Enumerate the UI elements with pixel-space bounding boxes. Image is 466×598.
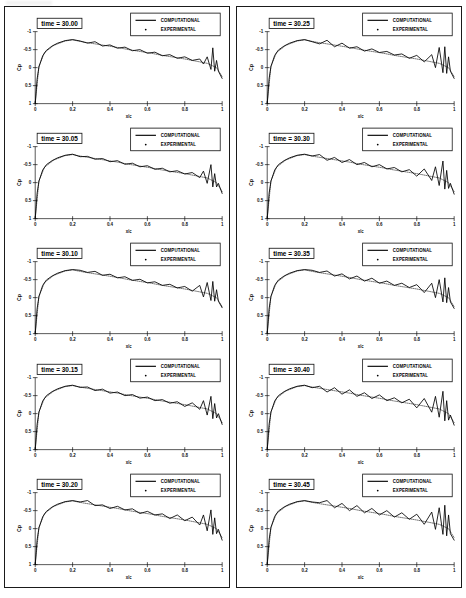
x-axis-label: x/c [126, 344, 132, 349]
x-tick-label: 1 [453, 568, 456, 573]
y-tick-label: 0.5 [257, 198, 264, 203]
y-tick-label: 0 [261, 296, 264, 301]
experimental-curve [267, 270, 454, 334]
x-axis-label: x/c [358, 113, 364, 118]
x-tick-label: 0.8 [414, 568, 421, 573]
x-tick-label: 0.6 [144, 222, 151, 227]
experimental-curve [35, 40, 222, 104]
time-label: time = 30.25 [273, 20, 310, 27]
y-tick-label: 0 [29, 411, 32, 416]
y-tick-label: 0.5 [25, 83, 32, 88]
y-tick-label: 0 [261, 411, 264, 416]
x-tick-label: 0.8 [182, 337, 189, 342]
computational-curve [267, 500, 454, 564]
x-tick-label: 0.6 [376, 107, 383, 112]
experimental-curve [267, 385, 454, 449]
x-axis-label: x/c [358, 574, 364, 579]
legend-label: EXPERIMENTAL [161, 142, 196, 147]
y-tick-label: 1 [261, 332, 264, 337]
x-tick-label: 1 [221, 337, 224, 342]
cp-panel: -1-0.500.5100.20.40.60.81x/cCptime = 30.… [238, 9, 460, 124]
y-tick-label: 0.5 [257, 544, 264, 549]
x-tick-label: 0.6 [144, 337, 151, 342]
y-tick-label: 0.5 [25, 314, 32, 319]
x-tick-label: 0.4 [339, 107, 346, 112]
x-tick-label: 0 [34, 453, 37, 458]
y-tick-label: -0.5 [24, 162, 32, 167]
x-tick-label: 0.2 [69, 222, 76, 227]
time-label: time = 30.30 [273, 135, 310, 142]
x-tick-label: 0.8 [182, 453, 189, 458]
legend-label: EXPERIMENTAL [393, 27, 428, 32]
x-tick-label: 0.2 [301, 337, 308, 342]
computational-curve [267, 385, 454, 449]
time-label: time = 30.35 [273, 250, 310, 257]
y-tick-label: -1 [27, 490, 31, 495]
y-tick-label: -1 [259, 375, 263, 380]
legend-label: EXPERIMENTAL [161, 258, 196, 263]
y-axis-label: Cp [248, 295, 254, 302]
x-tick-label: 0 [34, 337, 37, 342]
y-tick-label: -1 [27, 144, 31, 149]
y-tick-label: 0.5 [25, 429, 32, 434]
legend-label: EXPERIMENTAL [393, 142, 428, 147]
x-tick-label: 0 [34, 222, 37, 227]
y-tick-label: -0.5 [24, 508, 32, 513]
x-axis-label: x/c [126, 113, 132, 118]
x-tick-label: 0.2 [301, 222, 308, 227]
x-tick-label: 0.6 [376, 337, 383, 342]
x-tick-label: 0.8 [182, 107, 189, 112]
x-tick-label: 0.6 [376, 568, 383, 573]
legend-label: EXPERIMENTAL [393, 373, 428, 378]
y-tick-label: 0 [29, 296, 32, 301]
legend-label: COMPUTATIONAL [393, 133, 432, 138]
time-label: time = 30.45 [273, 480, 310, 487]
y-tick-label: -0.5 [256, 47, 264, 52]
x-axis-label: x/c [126, 574, 132, 579]
x-tick-label: 0.8 [414, 107, 421, 112]
time-label: time = 30.20 [41, 480, 78, 487]
computational-curve [35, 154, 222, 218]
x-tick-label: 0.2 [69, 107, 76, 112]
x-tick-label: 1 [453, 222, 456, 227]
x-tick-label: 0.6 [376, 453, 383, 458]
computational-curve [35, 40, 222, 104]
x-tick-label: 0.2 [69, 453, 76, 458]
x-tick-label: 0 [266, 107, 269, 112]
cp-panel: -1-0.500.5100.20.40.60.81x/cCptime = 30.… [238, 470, 460, 585]
cp-panel: -1-0.500.5100.20.40.60.81x/cCptime = 30.… [6, 470, 228, 585]
cp-panel: -1-0.500.5100.20.40.60.81x/cCptime = 30.… [6, 124, 228, 239]
x-tick-label: 0.4 [107, 568, 114, 573]
y-tick-label: 0.5 [257, 429, 264, 434]
x-tick-label: 0.4 [339, 222, 346, 227]
y-tick-label: -1 [259, 29, 263, 34]
y-tick-label: 1 [29, 216, 32, 221]
y-tick-label: 1 [261, 216, 264, 221]
x-tick-label: 1 [453, 107, 456, 112]
experimental-curve [35, 501, 222, 565]
y-tick-label: -0.5 [256, 393, 264, 398]
x-tick-label: 0.6 [144, 453, 151, 458]
x-axis-label: x/c [126, 229, 132, 234]
y-tick-label: 0.5 [25, 198, 32, 203]
x-tick-label: 0.8 [414, 337, 421, 342]
x-tick-label: 0.2 [69, 568, 76, 573]
x-tick-label: 0.4 [339, 453, 346, 458]
x-tick-label: 0 [34, 107, 37, 112]
computational-curve [267, 40, 454, 104]
y-tick-label: 0 [261, 526, 264, 531]
cp-panel: -1-0.500.5100.20.40.60.81x/cCptime = 30.… [238, 124, 460, 239]
x-tick-label: 0.2 [301, 568, 308, 573]
x-tick-label: 1 [221, 568, 224, 573]
time-label: time = 30.00 [41, 20, 78, 27]
legend-label: COMPUTATIONAL [161, 364, 200, 369]
y-tick-label: -1 [259, 144, 263, 149]
x-tick-label: 1 [453, 453, 456, 458]
cp-panel: -1-0.500.5100.20.40.60.81x/cCptime = 30.… [6, 9, 228, 124]
computational-curve [35, 270, 222, 334]
x-tick-label: 1 [453, 337, 456, 342]
x-tick-label: 0.4 [107, 453, 114, 458]
y-tick-label: 1 [29, 332, 32, 337]
y-axis-label: Cp [16, 64, 22, 71]
y-tick-label: 0.5 [257, 314, 264, 319]
